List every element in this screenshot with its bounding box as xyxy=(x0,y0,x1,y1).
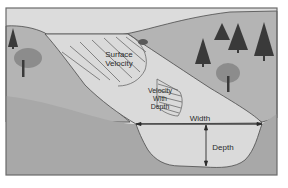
velocity-depth-line2: With xyxy=(140,95,180,103)
depth-label: Depth xyxy=(208,143,238,152)
surface-velocity-line1: Surface xyxy=(94,50,144,59)
width-label: Width xyxy=(182,114,218,123)
velocity-depth-line3: Depth xyxy=(140,103,180,111)
surface-velocity-label: Surface Velocity xyxy=(94,50,144,68)
velocity-with-depth-label: Velocity With Depth xyxy=(140,87,180,111)
velocity-depth-line1: Velocity xyxy=(140,87,180,95)
stream-cross-section-diagram: Surface Velocity Velocity With Depth Wid… xyxy=(0,0,288,188)
bush-icon xyxy=(138,39,148,45)
surface-velocity-line2: Velocity xyxy=(94,59,144,68)
